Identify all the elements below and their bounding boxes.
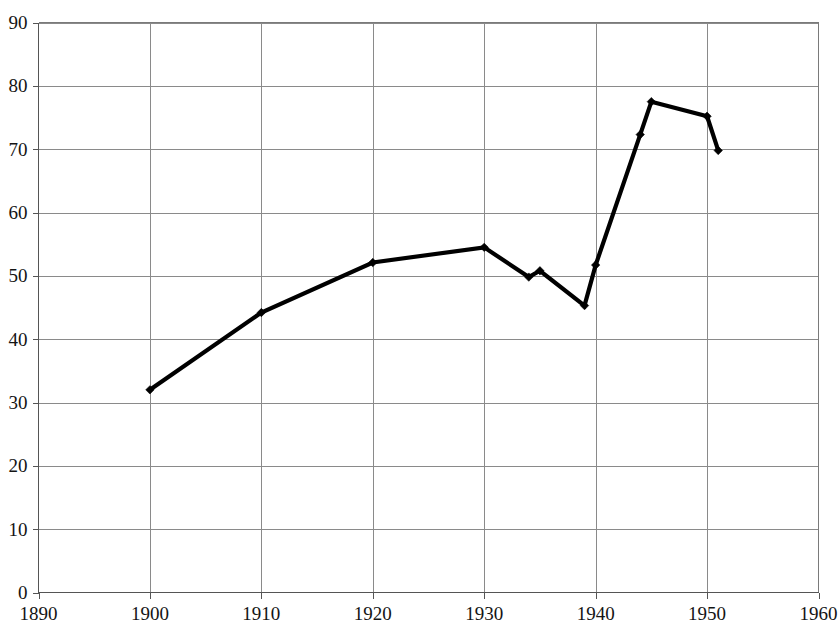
y-axis-label-80: 80	[9, 75, 28, 96]
x-axis-tick-labels: 18901900191019201930194019501960	[20, 603, 838, 624]
y-axis-label-50: 50	[9, 265, 28, 286]
y-axis-label-70: 70	[9, 139, 28, 160]
y-axis-label-20: 20	[9, 455, 28, 476]
x-axis-label-1890: 1890	[20, 603, 58, 624]
x-axis-label-1920: 1920	[354, 603, 392, 624]
plot-frame	[39, 23, 819, 593]
x-axis-label-1950: 1950	[688, 603, 726, 624]
data-series-line	[150, 102, 718, 390]
chart-container: 0102030405060708090 18901900191019201930…	[0, 0, 838, 637]
y-axis-label-40: 40	[9, 329, 28, 350]
x-axis-label-1940: 1940	[577, 603, 615, 624]
series-line-series-1	[150, 102, 718, 390]
y-axis-label-30: 30	[9, 392, 28, 413]
y-axis-label-90: 90	[9, 12, 28, 33]
y-axis-label-0: 0	[18, 582, 28, 603]
x-axis-label-1910: 1910	[242, 603, 280, 624]
y-axis-label-10: 10	[9, 519, 28, 540]
y-axis-tick-labels: 0102030405060708090	[9, 12, 28, 603]
vertical-gridlines	[151, 23, 708, 593]
x-axis-label-1930: 1930	[465, 603, 503, 624]
x-axis-label-1900: 1900	[131, 603, 169, 624]
line-chart: 0102030405060708090 18901900191019201930…	[0, 0, 838, 637]
x-axis-label-1960: 1960	[800, 603, 838, 624]
horizontal-gridlines	[39, 24, 819, 530]
y-axis-label-60: 60	[9, 202, 28, 223]
